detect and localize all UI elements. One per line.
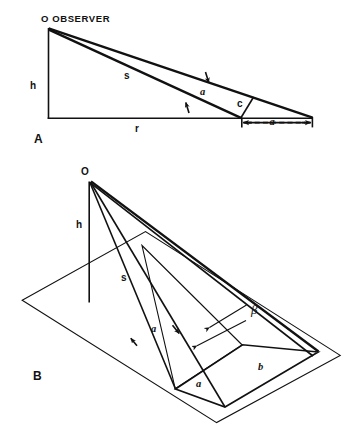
panel-a-label-s: s [124, 70, 130, 81]
panel-b-label-a-angle: a [151, 323, 156, 334]
observer-geometry-figure: O OBSERVER h r s [0, 0, 362, 440]
panel-b-label-b: b [258, 361, 263, 372]
panel-a-label-a-angle: a [200, 86, 205, 97]
panel-a-label-a-footprint: a [269, 116, 274, 127]
figure-root: O OBSERVER h r s [0, 0, 362, 440]
panel-a-label-r: r [135, 123, 139, 134]
panel-b-label-beta: β [250, 302, 258, 317]
panel-a-identifier: A [34, 132, 43, 146]
panel-b-label-a-footprint: a [196, 378, 201, 389]
panel-a-label-h: h [30, 80, 36, 91]
panel-b-label-s: s [121, 272, 127, 283]
panel-b-identifier: B [33, 369, 42, 383]
panel-a-observer-caption: O OBSERVER [41, 13, 110, 24]
panel-b-observer-point-label: O [81, 166, 89, 177]
figure-canvas [0, 0, 362, 440]
panel-b-label-h: h [76, 219, 82, 230]
panel-a-label-c: c [237, 98, 243, 109]
